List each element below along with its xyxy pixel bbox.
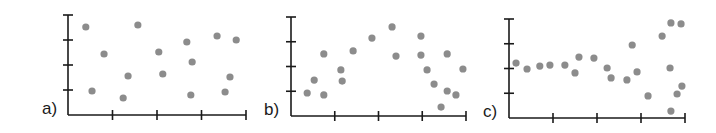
data-point xyxy=(134,21,141,28)
data-point xyxy=(226,73,233,80)
data-point xyxy=(590,55,597,62)
data-point xyxy=(423,66,430,73)
data-point xyxy=(444,50,451,57)
data-point xyxy=(159,70,166,77)
data-point xyxy=(88,87,95,94)
data-point xyxy=(82,23,89,30)
data-point xyxy=(673,90,680,97)
data-point xyxy=(183,38,190,45)
data-point xyxy=(437,103,444,110)
panel-label: b) xyxy=(264,100,279,119)
data-point xyxy=(233,36,240,43)
data-point xyxy=(444,87,451,94)
data-point xyxy=(607,74,614,81)
data-point xyxy=(523,65,530,72)
data-point xyxy=(304,89,311,96)
data-point xyxy=(350,47,357,54)
data-point xyxy=(392,53,399,60)
data-point xyxy=(417,52,424,59)
panel-label: c) xyxy=(483,102,497,121)
data-point xyxy=(659,32,666,39)
data-point xyxy=(546,61,553,68)
data-point xyxy=(667,107,674,114)
data-point xyxy=(388,23,395,30)
data-point xyxy=(155,48,162,55)
data-point xyxy=(459,65,466,72)
scatter-panel-a: a) xyxy=(42,15,246,120)
data-point xyxy=(221,88,228,95)
data-point xyxy=(644,92,651,99)
data-point xyxy=(678,82,685,89)
data-point xyxy=(120,94,127,101)
data-point xyxy=(571,69,578,76)
data-point xyxy=(430,80,437,87)
data-point xyxy=(512,59,519,66)
data-point xyxy=(633,68,640,75)
data-point xyxy=(320,50,327,57)
data-point xyxy=(452,91,459,98)
data-point xyxy=(677,20,684,27)
data-point xyxy=(536,62,543,69)
data-point xyxy=(320,91,327,98)
data-point xyxy=(561,61,568,68)
scatter-panel-c: c) xyxy=(483,19,686,123)
data-point xyxy=(667,19,674,26)
data-point xyxy=(666,64,673,71)
data-point xyxy=(187,91,194,98)
scatter-panel-b: b) xyxy=(264,17,467,121)
data-point xyxy=(124,72,131,79)
data-point xyxy=(417,32,424,39)
data-point xyxy=(189,58,196,65)
data-point xyxy=(337,66,344,73)
data-point xyxy=(623,76,630,83)
data-point xyxy=(213,32,220,39)
data-point xyxy=(368,34,375,41)
data-point xyxy=(311,77,318,84)
data-point xyxy=(629,41,636,48)
data-point xyxy=(339,78,346,85)
data-point xyxy=(100,50,107,57)
data-point xyxy=(604,64,611,71)
scatter-figure: a) b) c) xyxy=(0,0,716,133)
panel-label: a) xyxy=(42,99,57,118)
data-point xyxy=(575,54,582,61)
